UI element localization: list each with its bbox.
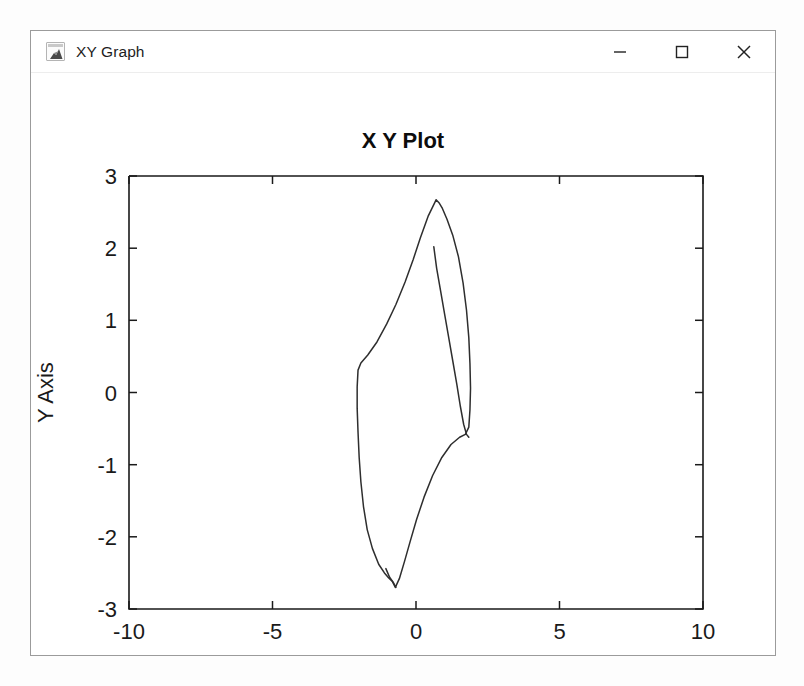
axis-box	[129, 176, 703, 609]
x-axis-ticks	[129, 176, 703, 609]
title-bar: XY Graph	[31, 31, 775, 73]
x-tick-label: 5	[553, 619, 565, 644]
x-axis-label: X Axis	[385, 653, 446, 655]
y-tick-label: 1	[105, 308, 117, 333]
y-tick-label: 3	[105, 164, 117, 189]
x-tick-label: 10	[691, 619, 715, 644]
x-axis-tick-labels: -10 -5 0 5 10	[113, 619, 715, 644]
xy-graph-window: XY Graph	[30, 30, 776, 656]
x-tick-label: -10	[113, 619, 145, 644]
window-title: XY Graph	[76, 43, 145, 61]
y-tick-label: 0	[105, 381, 117, 406]
y-axis-ticks	[129, 176, 703, 609]
trace-limit-cycle-outer	[357, 200, 470, 588]
window-controls	[589, 31, 775, 73]
xy-plot-area[interactable]: X Y Plot	[31, 73, 775, 655]
minimize-button[interactable]	[589, 31, 651, 73]
plot-canvas[interactable]: X Y Plot	[31, 73, 775, 655]
data-traces	[357, 200, 470, 588]
x-tick-label: 0	[410, 619, 422, 644]
y-axis-label: Y Axis	[33, 362, 58, 423]
close-button[interactable]	[713, 31, 775, 73]
trace-limit-cycle-inner-start	[434, 247, 469, 438]
y-tick-label: -1	[97, 453, 117, 478]
maximize-button[interactable]	[651, 31, 713, 73]
plot-title: X Y Plot	[362, 128, 445, 153]
trace-bottom-crossing-loop	[386, 569, 396, 588]
y-axis-tick-labels: 3 2 1 0 -1 -2 -3	[97, 164, 117, 622]
matlab-scope-icon	[46, 42, 65, 61]
screen: XY Graph	[0, 0, 804, 686]
y-tick-label: -2	[97, 525, 117, 550]
y-tick-label: 2	[105, 236, 117, 261]
x-tick-label: -5	[263, 619, 283, 644]
